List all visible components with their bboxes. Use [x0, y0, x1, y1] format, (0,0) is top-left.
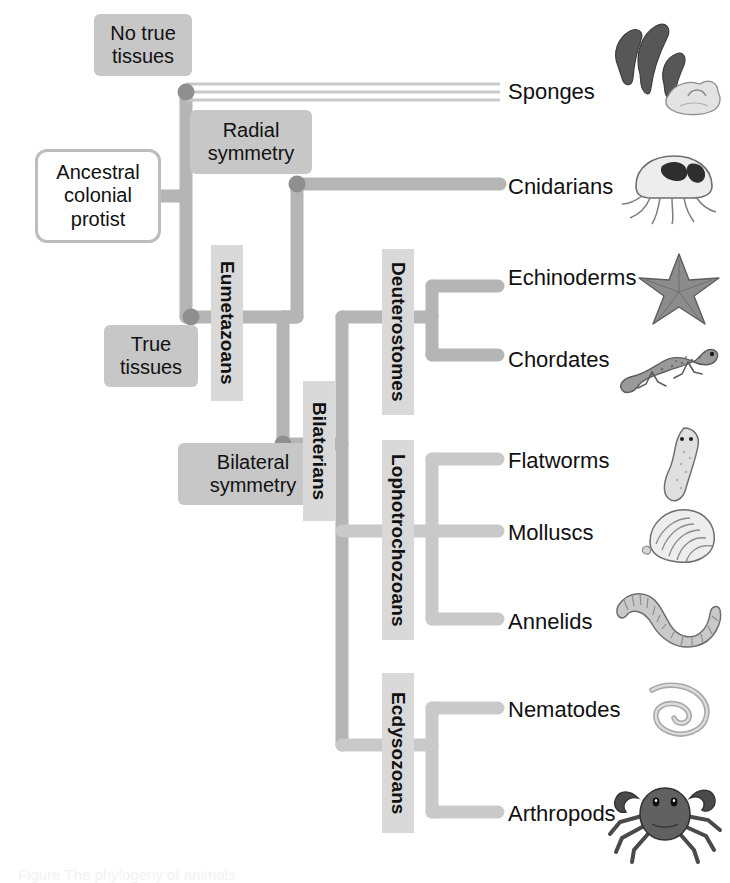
taxon-label-sponges: Sponges	[508, 81, 595, 103]
state-box-true-tissues: True tissues	[104, 325, 198, 387]
lizard-icon	[616, 330, 726, 404]
phylogenetic-tree-figure: No true tissues Radial symmetry True tis…	[0, 0, 730, 883]
roundworm-icon	[644, 680, 722, 742]
taxon-label-annelids: Annelids	[508, 611, 592, 633]
ancestor-box: Ancestral colonial protist	[35, 149, 161, 243]
clade-label-eumetazoans-text: Eumetazoans	[216, 261, 238, 385]
clade-label-bilaterians: Bilaterians	[303, 381, 335, 521]
clade-label-ecdysozoans: Ecdysozoans	[382, 673, 414, 833]
clade-label-deuterostomes-text: Deuterostomes	[387, 262, 409, 402]
taxon-label-molluscs: Molluscs	[508, 522, 594, 544]
taxon-label-flatworms: Flatworms	[508, 450, 609, 472]
clade-label-ecdysozoans-text: Ecdysozoans	[387, 692, 409, 815]
taxon-label-arthropods: Arthropods	[508, 803, 616, 825]
taxon-label-chordates: Chordates	[508, 349, 610, 371]
jellyfish-icon	[620, 152, 724, 226]
taxon-label-nematodes: Nematodes	[508, 699, 621, 721]
crab-icon	[604, 768, 726, 868]
clam-shell-icon	[636, 500, 722, 570]
tree-branches	[0, 0, 730, 883]
node-dot-radial-symmetry	[289, 176, 306, 193]
clade-label-lophotrochozoans: Lophotrochozoans	[382, 440, 414, 640]
flatworm-icon	[650, 424, 716, 510]
clade-label-eumetazoans: Eumetazoans	[211, 245, 243, 401]
clade-label-bilaterians-text: Bilaterians	[308, 402, 330, 500]
sponge-icon	[596, 22, 724, 118]
sea-star-icon	[636, 252, 722, 328]
earthworm-icon	[610, 584, 726, 656]
node-dot-true-tissues	[183, 309, 200, 326]
taxon-label-echinoderms: Echinoderms	[508, 267, 636, 289]
clade-label-lophotrochozoans-text: Lophotrochozoans	[387, 454, 409, 627]
figure-caption: Figure The phylogeny of animals	[18, 866, 708, 883]
taxon-label-cnidarians: Cnidarians	[508, 176, 613, 198]
state-box-radial-symmetry: Radial symmetry	[190, 110, 312, 174]
node-dot-no-true-tissues	[178, 84, 195, 101]
clade-label-deuterostomes: Deuterostomes	[382, 249, 414, 415]
state-box-no-true-tissues: No true tissues	[94, 14, 192, 76]
